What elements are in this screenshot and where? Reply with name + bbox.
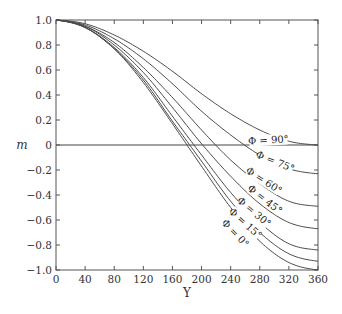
y-tick-label: −0.2	[27, 164, 53, 176]
y-tick-label: −0.4	[27, 189, 53, 201]
curve-60-deg	[56, 20, 318, 206]
x-tick-label: 160	[162, 273, 182, 285]
x-tick-label: 120	[133, 273, 153, 285]
x-tick-label: 40	[78, 273, 91, 285]
svg-text:Φ = 75°: Φ = 75°	[254, 149, 296, 174]
y-tick-label: 0.2	[35, 114, 52, 126]
curve-75-deg	[56, 20, 318, 174]
curve-label: Φ = 90°	[248, 133, 289, 146]
y-tick-label: 0.4	[35, 89, 52, 101]
svg-text:Φ = 90°: Φ = 90°	[248, 133, 289, 146]
x-tick-label: 360	[308, 273, 328, 285]
y-tick-label: 0.8	[35, 39, 52, 51]
curve-label: Φ = 75°	[254, 149, 296, 174]
x-tick-label: 280	[250, 273, 270, 285]
y-tick-label: −1.0	[27, 264, 53, 276]
y-tick-label: −0.8	[27, 239, 53, 251]
x-tick-label: 200	[192, 273, 212, 285]
line-chart: 040801201602002402803203601.00.80.60.40.…	[0, 0, 342, 314]
y-tick-label: 0	[45, 139, 52, 151]
x-tick-label: 240	[221, 273, 241, 285]
x-axis-title: Υ	[182, 286, 192, 300]
y-tick-label: 1.0	[35, 14, 52, 26]
axes: 040801201602002402803203601.00.80.60.40.…	[27, 14, 329, 286]
curve-45-deg	[56, 20, 318, 229]
x-tick-label: 80	[108, 273, 121, 285]
x-tick-label: 0	[53, 273, 60, 285]
y-tick-label: 0.6	[35, 64, 52, 76]
y-tick-label: −0.6	[27, 214, 53, 226]
y-axis-title: m	[16, 138, 27, 152]
x-tick-label: 320	[279, 273, 299, 285]
